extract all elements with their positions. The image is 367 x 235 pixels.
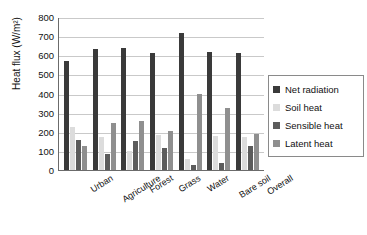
y-tick-label: 800 bbox=[38, 13, 54, 23]
bar bbox=[76, 140, 81, 170]
legend-swatch-icon bbox=[273, 86, 280, 93]
y-tick-label: 600 bbox=[38, 52, 54, 62]
plot-area: 0100200300400500600700800 bbox=[58, 18, 264, 171]
y-tick-label: 100 bbox=[38, 147, 54, 157]
legend-label: Sensible heat bbox=[285, 120, 343, 131]
y-tick-label: 200 bbox=[38, 128, 54, 138]
legend-item[interactable]: Sensible heat bbox=[273, 116, 360, 134]
legend-item[interactable]: Latent heat bbox=[273, 134, 360, 152]
bar bbox=[225, 108, 230, 170]
legend-swatch-icon bbox=[273, 104, 280, 111]
bar-groups bbox=[59, 18, 264, 170]
bar bbox=[150, 53, 155, 170]
legend-swatch-icon bbox=[273, 140, 280, 147]
bar bbox=[185, 159, 190, 170]
bar bbox=[70, 127, 75, 170]
bar bbox=[179, 33, 184, 170]
bar bbox=[156, 135, 161, 170]
legend-label: Soil heat bbox=[285, 102, 322, 113]
y-tick-label: 400 bbox=[38, 90, 54, 100]
bar-group bbox=[147, 18, 176, 170]
bar bbox=[105, 154, 110, 170]
bar bbox=[236, 53, 241, 170]
legend-label: Net radiation bbox=[285, 84, 339, 95]
x-tick-label: Water bbox=[206, 173, 231, 194]
x-axis-labels: UrbanAgricultureForestGrassWaterBare soi… bbox=[58, 173, 264, 231]
bar bbox=[242, 137, 247, 170]
x-tick-label: Overall bbox=[266, 173, 295, 197]
bar-group bbox=[61, 18, 90, 170]
x-tick-label: Urban bbox=[88, 173, 114, 194]
y-tick-label: 0 bbox=[49, 166, 54, 176]
bar bbox=[133, 141, 138, 170]
y-tick-label: 500 bbox=[38, 71, 54, 81]
bar-group bbox=[118, 18, 147, 170]
bar bbox=[168, 131, 173, 170]
bar bbox=[99, 137, 104, 170]
legend-label: Latent heat bbox=[285, 138, 333, 149]
y-tick-label: 700 bbox=[38, 32, 54, 42]
x-tick-label: Grass bbox=[177, 173, 203, 194]
y-tick-label: 300 bbox=[38, 109, 54, 119]
bar bbox=[162, 148, 167, 170]
bar bbox=[197, 94, 202, 170]
bar bbox=[207, 52, 212, 170]
legend-swatch-icon bbox=[273, 122, 280, 129]
bar bbox=[111, 123, 116, 170]
bar bbox=[219, 163, 224, 170]
bar bbox=[254, 134, 259, 170]
bar-group bbox=[176, 18, 205, 170]
bar bbox=[64, 61, 69, 170]
bar-chart: Heat flux (W/m²) 01002003004005006007008… bbox=[0, 0, 367, 235]
bar bbox=[82, 146, 87, 170]
chart-legend: Net radiationSoil heatSensible heatLaten… bbox=[268, 75, 364, 157]
legend-item[interactable]: Soil heat bbox=[273, 98, 360, 116]
bar-group bbox=[90, 18, 119, 170]
legend-item[interactable]: Net radiation bbox=[273, 80, 360, 98]
bar bbox=[213, 136, 218, 170]
bar-group bbox=[233, 18, 262, 170]
bar bbox=[121, 48, 126, 170]
bar bbox=[139, 121, 144, 170]
bar bbox=[191, 165, 196, 170]
bar bbox=[127, 151, 132, 170]
bar-group bbox=[205, 18, 234, 170]
y-axis-title: Heat flux (W/m²) bbox=[11, 0, 22, 114]
bar bbox=[93, 49, 98, 170]
bar bbox=[248, 146, 253, 170]
